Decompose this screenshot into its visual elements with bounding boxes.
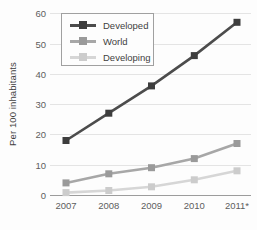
data-point-marker: [105, 170, 112, 177]
data-point-marker: [63, 189, 70, 196]
data-point-marker: [105, 110, 112, 117]
y-tick-label: 60: [35, 8, 46, 19]
data-point-marker: [234, 140, 241, 147]
x-tick-label: 2007: [55, 200, 76, 211]
legend-label: World: [103, 36, 128, 47]
x-tick-label: 2010: [184, 200, 205, 211]
line-square-marker-icon: [70, 21, 96, 30]
data-point-marker: [148, 82, 155, 89]
x-tick-labels: 20072008200920102011*: [55, 200, 249, 211]
legend-item-world: World: [70, 33, 153, 49]
x-tick-label: 2011*: [225, 200, 249, 211]
series-developing: [63, 167, 241, 196]
line-square-marker-icon: [70, 37, 96, 46]
line-square-marker-icon: [70, 53, 96, 62]
y-tick-label: 40: [35, 69, 46, 80]
legend-label: Developing: [103, 52, 151, 63]
data-point-marker: [148, 183, 155, 190]
y-tick-label: 30: [35, 99, 46, 110]
data-point-marker: [234, 167, 241, 174]
data-point-marker: [63, 179, 70, 186]
legend-label: Developed: [103, 20, 148, 31]
data-point-marker: [191, 155, 198, 162]
data-point-marker: [234, 19, 241, 26]
mobile-broadband-line-chart: Per 100 inhabitants 01020304050602007200…: [0, 0, 257, 230]
legend-item-developing: Developing: [70, 49, 153, 65]
series-world: [63, 140, 241, 186]
y-tick-label: 0: [41, 190, 46, 201]
y-tick-label: 10: [35, 160, 46, 171]
x-tick-label: 2009: [141, 200, 162, 211]
data-point-marker: [191, 176, 198, 183]
data-point-marker: [105, 187, 112, 194]
legend: Developed World Developing: [61, 13, 154, 66]
legend-item-developed: Developed: [70, 17, 153, 33]
data-point-marker: [63, 137, 70, 144]
y-tick-label: 50: [35, 39, 46, 50]
y-tick-label: 20: [35, 129, 46, 140]
x-tick-label: 2008: [98, 200, 119, 211]
data-point-marker: [191, 52, 198, 59]
data-point-marker: [148, 164, 155, 171]
